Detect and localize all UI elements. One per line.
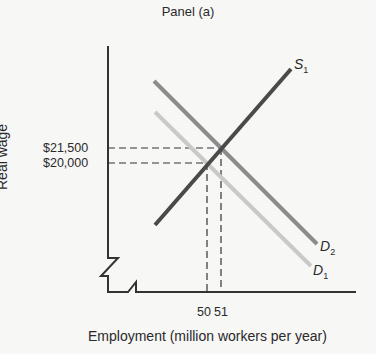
label-d1: D1 [313, 262, 328, 281]
y-tick-21500: $21,500 [43, 141, 88, 155]
plot-area [0, 0, 376, 354]
supply-curve-s1 [155, 69, 291, 225]
y-axis [101, 46, 356, 292]
label-d2: D2 [320, 238, 335, 257]
x-tick-50: 50 [197, 305, 211, 319]
label-s1: S1 [294, 56, 308, 75]
x-tick-51: 51 [214, 305, 228, 319]
y-tick-20000: $20,000 [43, 156, 88, 170]
